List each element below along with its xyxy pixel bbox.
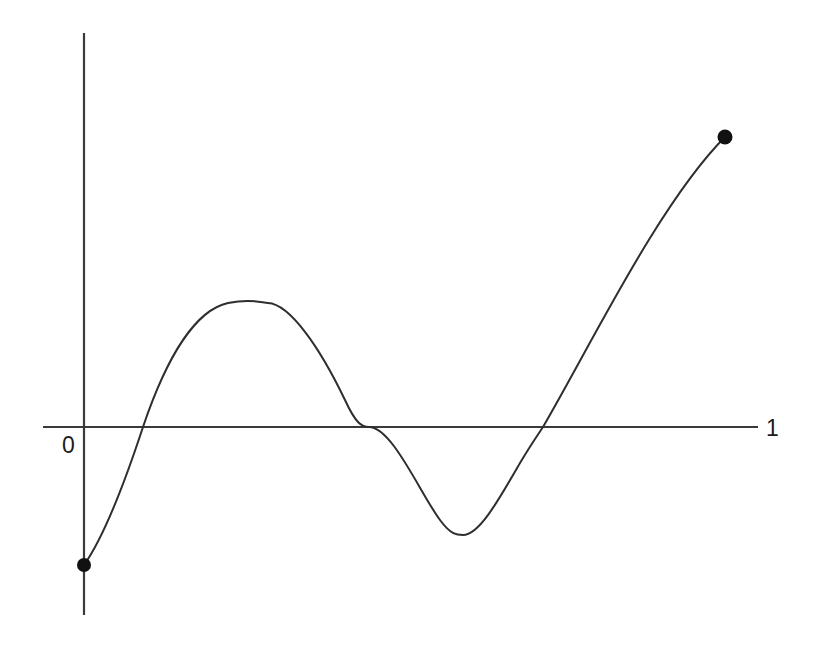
graph-figure: 0 1 [0, 0, 813, 648]
x-axis-label-one: 1 [766, 415, 779, 441]
left-endpoint-dot [77, 558, 91, 572]
figure-background [0, 0, 813, 648]
right-endpoint-dot [718, 130, 733, 145]
x-axis-label-zero: 0 [62, 432, 75, 458]
plot-canvas: 0 1 [0, 0, 813, 648]
